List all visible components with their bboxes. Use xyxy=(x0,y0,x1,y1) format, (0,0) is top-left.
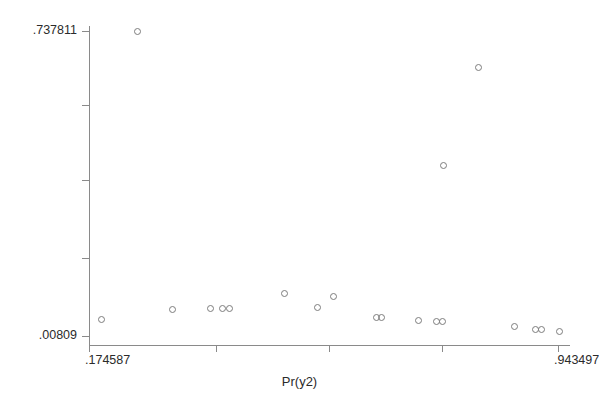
y-axis-line xyxy=(89,26,90,345)
data-point xyxy=(556,328,563,335)
data-point xyxy=(511,323,518,330)
y-axis-tick xyxy=(82,180,89,181)
x-axis-tick xyxy=(329,345,330,352)
data-point xyxy=(219,305,226,312)
data-point xyxy=(475,64,482,71)
data-point xyxy=(415,317,422,324)
data-point xyxy=(538,326,545,333)
data-point xyxy=(330,293,337,300)
data-point xyxy=(439,318,446,325)
y-axis-tick xyxy=(82,31,89,32)
data-point xyxy=(207,305,214,312)
data-point xyxy=(226,305,233,312)
data-point xyxy=(378,314,385,321)
y-axis-tick xyxy=(82,336,89,337)
x-axis-title: Pr(y2) xyxy=(0,375,599,388)
y-axis-tick-label: .00809 xyxy=(0,329,77,342)
data-point xyxy=(98,316,105,323)
x-axis-tick-label: .943497 xyxy=(554,354,599,367)
x-axis-tick-label: .174587 xyxy=(85,354,130,367)
data-point xyxy=(134,28,141,35)
y-axis-tick-label: .737811 xyxy=(0,24,77,37)
x-axis-tick xyxy=(558,345,559,352)
y-axis-tick xyxy=(82,258,89,259)
x-axis-tick xyxy=(216,345,217,352)
data-point xyxy=(314,304,321,311)
data-point xyxy=(281,290,288,297)
x-axis-tick xyxy=(442,345,443,352)
y-axis-tick xyxy=(82,105,89,106)
scatter-plot: .737811.00809.174587.943497 Pr(y2) xyxy=(0,0,599,406)
x-axis-tick xyxy=(89,345,90,352)
data-point xyxy=(440,162,447,169)
data-point xyxy=(169,306,176,313)
